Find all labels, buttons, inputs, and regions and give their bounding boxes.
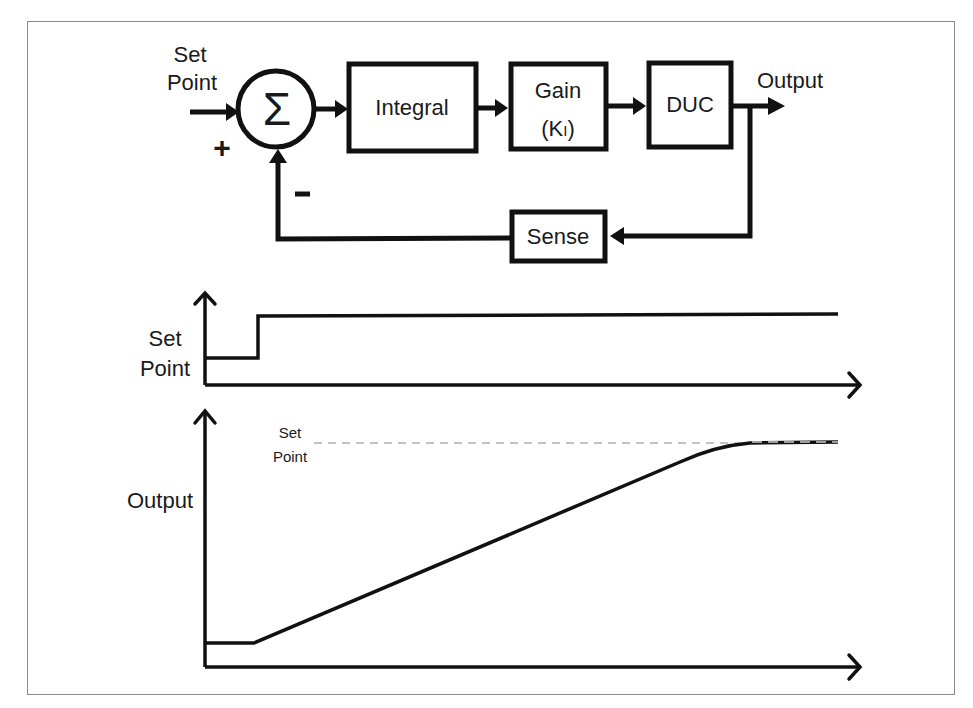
integral-block-label: Integral [375, 95, 448, 120]
output-plot-ylabel: Output [127, 488, 193, 513]
setpoint-plot-ylabel-line2: Point [140, 356, 190, 381]
gain-block-label: Gain [535, 78, 581, 103]
gain-ki-label: (KI) [541, 116, 575, 141]
duc-block-label: DUC [666, 92, 714, 117]
output-response-trace [205, 442, 838, 643]
sense-block-label: Sense [527, 224, 589, 249]
output-plot: Output Set Point [127, 411, 860, 679]
setpoint-plot: Set Point [140, 293, 860, 397]
setpoint-input-label-line2: Point [167, 70, 217, 95]
setpoint-step-trace [205, 314, 838, 358]
setpoint-ref-label-line2: Point [273, 448, 308, 465]
setpoint-plot-ylabel-line1: Set [148, 326, 181, 351]
setpoint-ref-label-line1: Set [279, 424, 302, 441]
arrowhead-icon [335, 100, 348, 118]
arrowhead-icon [633, 97, 646, 115]
output-arrowhead-icon [768, 97, 785, 115]
arrowhead-icon [495, 99, 508, 117]
setpoint-input-label-line1: Set [173, 42, 206, 67]
integral-control-figure: Set Point + Σ Integral Gain (KI) DUC O [0, 0, 973, 708]
sigma-symbol: Σ [263, 83, 291, 135]
feedback-path-left [278, 160, 512, 239]
block-diagram: Set Point + Σ Integral Gain (KI) DUC O [167, 42, 823, 261]
feedback-arrowhead-icon [610, 227, 624, 245]
plus-sign: + [213, 131, 231, 164]
output-label: Output [757, 68, 823, 93]
feedback-up-arrowhead-icon [269, 149, 287, 163]
